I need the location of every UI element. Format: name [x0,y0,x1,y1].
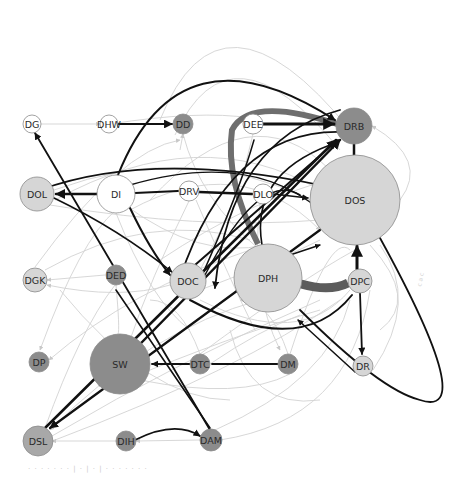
node-label: DGK [25,275,47,286]
node-label: DD [176,119,191,130]
node-doc[interactable]: DOC [170,263,206,299]
node-label: DPH [258,273,278,284]
node-label: DED [106,270,127,281]
node-label: DOL [27,189,48,200]
node-label: DLO [253,189,273,200]
node-label: DRV [179,186,199,197]
node-dtc[interactable]: DTC [190,354,210,374]
node-label: DR [356,361,370,372]
node-label: DIH [117,436,134,447]
node-label: DOC [177,276,199,287]
node-dam[interactable]: DAM [200,429,222,451]
node-dlo[interactable]: DLO [253,184,273,204]
node-dd[interactable]: DD [173,114,193,134]
node-label: DP [32,357,45,368]
node-label: DI [111,189,121,200]
node-drv[interactable]: DRV [179,181,199,201]
node-drb[interactable]: DRB [336,108,372,144]
node-di[interactable]: DI [97,175,135,213]
node-label: DOS [345,195,366,206]
node-label: DG [25,119,40,130]
node-dih[interactable]: DIH [116,431,136,451]
node-dp[interactable]: DP [29,352,49,372]
network-graph: DG DHW DD DEE DRB DOL DI DRV DLO DOS DGK… [0,0,451,477]
node-label: DAM [200,435,222,446]
figure-caption: · · · · · · · | · | · | · · · · · · · [28,465,148,473]
node-dee[interactable]: DEE [243,114,263,134]
node-dsl[interactable]: DSL [23,426,53,456]
node-label: SW [112,359,128,370]
node-label: DEE [243,119,262,130]
node-dol[interactable]: DOL [20,177,54,211]
node-label: DTC [190,359,210,370]
node-ded[interactable]: DED [106,265,127,285]
node-dhw[interactable]: DHW [97,115,121,133]
node-dgk[interactable]: DGK [23,268,47,292]
node-dpc[interactable]: DPC [348,269,372,293]
node-label: DHW [97,119,121,130]
node-dph[interactable]: DPH [234,244,302,312]
node-sw[interactable]: SW [90,334,150,394]
node-label: DM [280,359,296,370]
node-dr[interactable]: DR [353,356,373,376]
node-dg[interactable]: DG [23,115,41,133]
node-label: DSL [29,436,48,447]
node-label: DRB [344,121,364,132]
node-dm[interactable]: DM [278,354,298,374]
node-dos[interactable]: DOS [310,155,400,245]
node-label: DPC [350,276,370,287]
